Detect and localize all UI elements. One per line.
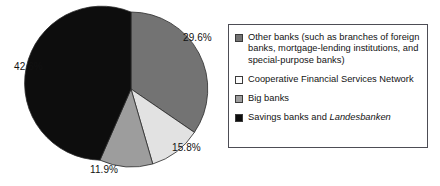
- pie-label-other-banks: 29.6%: [183, 32, 212, 43]
- legend-box: Other banks (such as branches of foreign…: [228, 24, 428, 148]
- pie-label-big-banks: 11.9%: [90, 164, 118, 175]
- legend-label-landesbanken-italic: Landesbanken: [330, 112, 391, 122]
- legend-label-big-banks: Big banks: [248, 93, 289, 104]
- legend-label-savings-banks: Savings banks and Landesbanken: [248, 112, 391, 123]
- pie-plot-area: 29.6% 15.8% 11.9% 42.6%: [0, 0, 225, 186]
- legend-list: Other banks (such as branches of foreign…: [235, 32, 423, 124]
- pie-chart-figure: 29.6% 15.8% 11.9% 42.6% Other banks (suc…: [0, 0, 440, 186]
- legend-label-cooperative: Cooperative Financial Services Network: [248, 74, 414, 85]
- legend-label-other-banks: Other banks (such as branches of foreign…: [248, 32, 423, 66]
- legend-item-other-banks[interactable]: Other banks (such as branches of foreign…: [235, 32, 423, 66]
- legend-item-savings-banks[interactable]: Savings banks and Landesbanken: [235, 112, 423, 123]
- legend-swatch-other-banks: [235, 34, 243, 42]
- pie-svg: [0, 0, 225, 186]
- legend-item-cooperative[interactable]: Cooperative Financial Services Network: [235, 74, 423, 85]
- legend-label-savings-banks-lead: Savings banks and: [248, 112, 330, 122]
- legend-swatch-savings-banks: [235, 114, 243, 122]
- pie-label-cooperative: 15.8%: [172, 142, 201, 153]
- legend-item-big-banks[interactable]: Big banks: [235, 93, 423, 104]
- pie-label-savings-banks: 42.6%: [14, 61, 43, 72]
- legend-swatch-cooperative: [235, 76, 243, 84]
- legend-swatch-big-banks: [235, 95, 243, 103]
